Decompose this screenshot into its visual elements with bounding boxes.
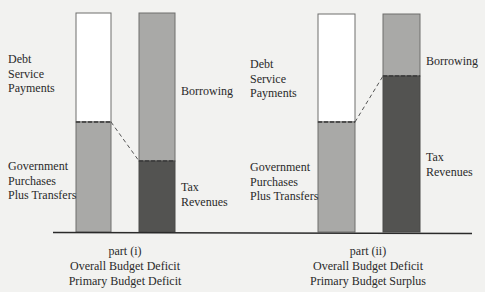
budget-deficit-diagram: Debt Service Payments Government Purchas…	[0, 0, 485, 292]
label-line: Service	[8, 67, 55, 82]
part-ii-borrowing-segment	[383, 14, 420, 76]
part-i-debt-service-segment	[76, 13, 111, 122]
part-ii-debt-service-label: Debt Service Payments	[250, 57, 297, 101]
caption-title: part (i)	[60, 244, 190, 259]
part-i-borrowing-label: Borrowing	[181, 84, 233, 99]
caption-title: part (ii)	[298, 244, 438, 259]
label-line: Purchases	[250, 175, 318, 190]
part-ii-bars	[318, 14, 420, 232]
caption-line: Primary Budget Surplus	[298, 274, 438, 289]
label-line: Payments	[250, 86, 297, 101]
part-ii-gov-purchases-label: Government Purchases Plus Transfers	[250, 160, 318, 204]
part-ii-tax-revenues-label: Tax Revenues	[426, 150, 473, 179]
part-ii-gov-purchases-segment	[318, 122, 355, 232]
part-ii-connector-line	[355, 76, 383, 122]
caption-line: Primary Budget Deficit	[60, 274, 190, 289]
part-i-bars	[76, 13, 175, 232]
caption-line: Overall Budget Deficit	[298, 259, 438, 274]
label-line: Tax	[426, 150, 473, 165]
label-line: Plus Transfers	[250, 189, 318, 204]
part-ii-debt-service-segment	[318, 14, 355, 122]
label-line: Revenues	[426, 165, 473, 180]
part-ii-tax-revenues-segment	[383, 76, 420, 232]
part-i-caption: part (i) Overall Budget Deficit Primary …	[60, 244, 190, 289]
part-i-debt-service-label: Debt Service Payments	[8, 52, 55, 96]
label-line: Debt	[8, 52, 55, 67]
caption-line: Overall Budget Deficit	[60, 259, 190, 274]
part-i-borrowing-segment	[139, 13, 175, 161]
part-ii-borrowing-label: Borrowing	[426, 54, 478, 69]
label-line: Government	[8, 159, 76, 174]
label-line: Revenues	[181, 195, 228, 210]
label-line: Purchases	[8, 174, 76, 189]
label-line: Debt	[250, 57, 297, 72]
label-line: Service	[250, 72, 297, 87]
baseline-axis	[53, 233, 472, 234]
part-i-tax-revenues-label: Tax Revenues	[181, 180, 228, 209]
label-line: Tax	[181, 180, 228, 195]
label-line: Payments	[8, 81, 55, 96]
label-line: Government	[250, 160, 318, 175]
part-i-connector-line	[111, 122, 139, 161]
part-i-gov-purchases-segment	[76, 122, 111, 232]
part-i-gov-purchases-label: Government Purchases Plus Transfers	[8, 159, 76, 203]
part-ii-caption: part (ii) Overall Budget Deficit Primary…	[298, 244, 438, 289]
label-line: Plus Transfers	[8, 188, 76, 203]
part-i-tax-revenues-segment	[139, 161, 175, 232]
